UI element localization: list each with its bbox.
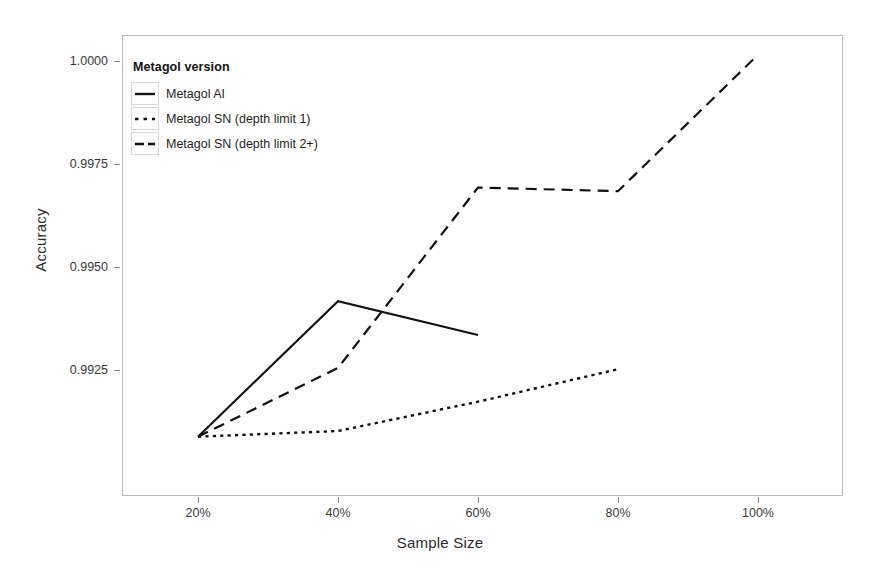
legend-label-0: Metagol AI — [166, 87, 225, 101]
legend-title: Metagol version — [133, 60, 346, 74]
x-tick-mark-0 — [198, 497, 199, 503]
legend-key-dotted-line-icon — [131, 107, 159, 130]
y-tick-mark-2 — [114, 164, 120, 165]
y-axis-title: Accuracy — [32, 180, 49, 300]
legend: Metagol version Metagol AI Metagol SN (d… — [131, 60, 346, 156]
y-tick-label-1: 0.9950 — [38, 260, 108, 274]
legend-item-metagol-ai[interactable]: Metagol AI — [131, 81, 346, 106]
y-tick-label-2: 0.9975 — [38, 157, 108, 171]
y-tick-mark-1 — [114, 267, 120, 268]
legend-item-metagol-sn-depth1[interactable]: Metagol SN (depth limit 1) — [131, 106, 346, 131]
x-tick-label-0: 20% — [168, 506, 228, 520]
x-tick-label-4: 100% — [728, 506, 788, 520]
x-axis-title: Sample Size — [0, 534, 880, 551]
legend-label-1: Metagol SN (depth limit 1) — [166, 112, 311, 126]
y-tick-mark-0 — [114, 370, 120, 371]
x-tick-mark-3 — [618, 497, 619, 503]
y-axis-title-container: Accuracy — [32, 180, 52, 300]
legend-label-2: Metagol SN (depth limit 2+) — [166, 137, 318, 151]
legend-key-dashed-line-icon — [131, 132, 159, 155]
series-metagol-sn-depth1-line — [198, 369, 618, 437]
y-tick-label-0: 0.9925 — [38, 363, 108, 377]
x-tick-mark-1 — [338, 497, 339, 503]
y-tick-mark-3 — [114, 61, 120, 62]
x-tick-label-1: 40% — [308, 506, 368, 520]
x-tick-mark-2 — [478, 497, 479, 503]
x-tick-label-3: 80% — [588, 506, 648, 520]
legend-item-metagol-sn-depth2plus[interactable]: Metagol SN (depth limit 2+) — [131, 131, 346, 156]
line-chart: Accuracy 0.9925 0.9950 0.9975 1.0000 Met… — [0, 0, 880, 574]
x-tick-mark-4 — [758, 497, 759, 503]
legend-key-solid-line-icon — [131, 82, 159, 105]
x-tick-label-2: 60% — [448, 506, 508, 520]
y-tick-label-3: 1.0000 — [38, 54, 108, 68]
